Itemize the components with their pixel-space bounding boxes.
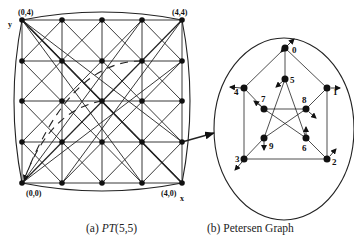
node-label-9: 9 bbox=[269, 141, 274, 151]
axis-y-label: y bbox=[8, 20, 12, 29]
corner-label-top-left: (0,4) bbox=[18, 8, 34, 17]
node-2 bbox=[324, 156, 331, 163]
node-label-1: 1 bbox=[333, 87, 338, 97]
node-label-0: 0 bbox=[292, 45, 297, 55]
node-1 bbox=[324, 85, 331, 92]
node-0 bbox=[282, 45, 289, 52]
corner-label-bottom-left: (0,0) bbox=[26, 189, 42, 198]
node-label-7: 7 bbox=[261, 94, 266, 104]
corner-label-bottom-right: (4,0) bbox=[161, 189, 177, 198]
petersen-nodes bbox=[241, 45, 331, 163]
node-7 bbox=[261, 106, 268, 113]
node-4 bbox=[241, 85, 248, 92]
node-label-3: 3 bbox=[235, 154, 240, 164]
caption-b: (b) Petersen Graph bbox=[207, 222, 294, 235]
node-5 bbox=[282, 76, 289, 83]
figure-canvas: (0,4) (4,4) (0,0) (4,0) y x (a) PT(5,5) bbox=[0, 0, 354, 242]
node-6 bbox=[303, 135, 310, 142]
node-label-4: 4 bbox=[234, 87, 239, 97]
node-label-2: 2 bbox=[332, 157, 337, 167]
node-label-6: 6 bbox=[302, 143, 307, 153]
corner-label-top-right: (4,4) bbox=[172, 8, 188, 17]
axis-x-label: x bbox=[180, 194, 184, 203]
node-8 bbox=[303, 106, 310, 113]
caption-a: (a) PT(5,5) bbox=[86, 222, 137, 235]
node-label-5: 5 bbox=[290, 75, 295, 85]
node-label-8: 8 bbox=[302, 95, 307, 105]
node-3 bbox=[241, 156, 248, 163]
node-9 bbox=[261, 135, 268, 142]
petersen-graph-diagram bbox=[214, 38, 354, 220]
